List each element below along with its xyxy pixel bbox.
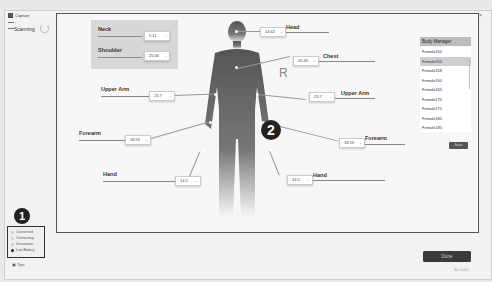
- list-item-selected[interactable]: Female155: [420, 57, 471, 67]
- scanning-label: Scanning: [14, 26, 35, 32]
- upper-arm-left-label: Upper Arm: [101, 86, 129, 92]
- forearm-right-value-field[interactable]: 18.59⌄: [339, 138, 365, 148]
- status-connected: Connected: [16, 230, 33, 234]
- window-title: Capture: [15, 13, 29, 18]
- app-icon: [8, 13, 13, 18]
- forearm-left-value-field[interactable]: 18.59⌄: [125, 135, 151, 145]
- neck-value-field[interactable]: 5.11⌄: [144, 31, 170, 41]
- save-button[interactable]: Save: [449, 142, 468, 149]
- shoulder-label: Shoulder: [98, 47, 122, 53]
- device-status-legend: Connected Connecting Disconnect Low Batt…: [7, 226, 45, 258]
- forearm-left-label: Forearm: [79, 130, 101, 136]
- status-disconnect: Disconnect: [16, 242, 33, 246]
- annotation-badge-1: 1: [14, 208, 30, 224]
- loading-spinner-icon: [40, 24, 49, 33]
- list-item[interactable]: Female150: [420, 47, 471, 57]
- neck-shoulder-group: Neck 5.11⌄ Shoulder 25.46⌄: [91, 20, 178, 69]
- upper-arm-right-value-field[interactable]: 23.7⌄: [309, 92, 335, 102]
- body-measurement-panel: Neck 5.11⌄ Shoulder 25.46⌄ L R 14.62⌄ He…: [56, 13, 479, 233]
- status-connecting: Connecting: [16, 236, 34, 240]
- list-item[interactable]: Female180: [420, 114, 471, 124]
- neck-label: Neck: [98, 26, 111, 32]
- status-low-battery: Low Battery: [16, 248, 34, 252]
- status-dot-active-icon: [11, 249, 14, 252]
- list-item[interactable]: Female160: [420, 76, 471, 86]
- body-silhouette: [197, 19, 277, 219]
- close-button[interactable]: ×: [479, 12, 482, 18]
- hand-left-value-field[interactable]: 14.5⌄: [175, 176, 201, 186]
- tips-link[interactable]: ▣ Tips: [12, 262, 24, 267]
- version-label: Ver 1.0.0.0: [454, 268, 469, 272]
- right-side-label: R: [279, 66, 288, 80]
- hand-right-value-field[interactable]: 14.5⌄: [287, 175, 313, 185]
- status-dot-icon: [11, 231, 14, 234]
- chest-label: Chest: [323, 53, 338, 59]
- head-value-field[interactable]: 14.62⌄: [260, 27, 286, 37]
- shoulder-value-field[interactable]: 25.46⌄: [144, 51, 170, 61]
- list-item[interactable]: Female158: [420, 66, 471, 76]
- forearm-right-label: Forearm: [365, 135, 387, 141]
- body-manager-panel: Body Manager Female150 Female155 Female1…: [420, 37, 471, 152]
- list-item[interactable]: Female175: [420, 104, 471, 114]
- status-dot-icon: [11, 237, 14, 240]
- body-manager-list[interactable]: Female150 Female155 Female158 Female160 …: [420, 47, 471, 132]
- head-label: Head: [286, 24, 299, 30]
- status-dot-icon: [11, 243, 14, 246]
- list-item[interactable]: Female185: [420, 123, 471, 133]
- hand-left-label: Hand: [103, 171, 117, 177]
- done-button[interactable]: Done: [423, 251, 471, 262]
- upper-arm-right-label: Upper Arm: [341, 90, 369, 96]
- chest-value-field[interactable]: 45.49⌄: [293, 56, 319, 66]
- annotation-badge-2: 2: [261, 120, 281, 140]
- body-manager-title: Body Manager: [420, 37, 471, 46]
- list-scrollbar[interactable]: [469, 59, 470, 89]
- hand-right-label: Hand: [313, 172, 327, 178]
- list-item[interactable]: Female170: [420, 95, 471, 105]
- list-item[interactable]: Female165: [420, 85, 471, 95]
- upper-arm-left-value-field[interactable]: 23.7⌄: [149, 91, 175, 101]
